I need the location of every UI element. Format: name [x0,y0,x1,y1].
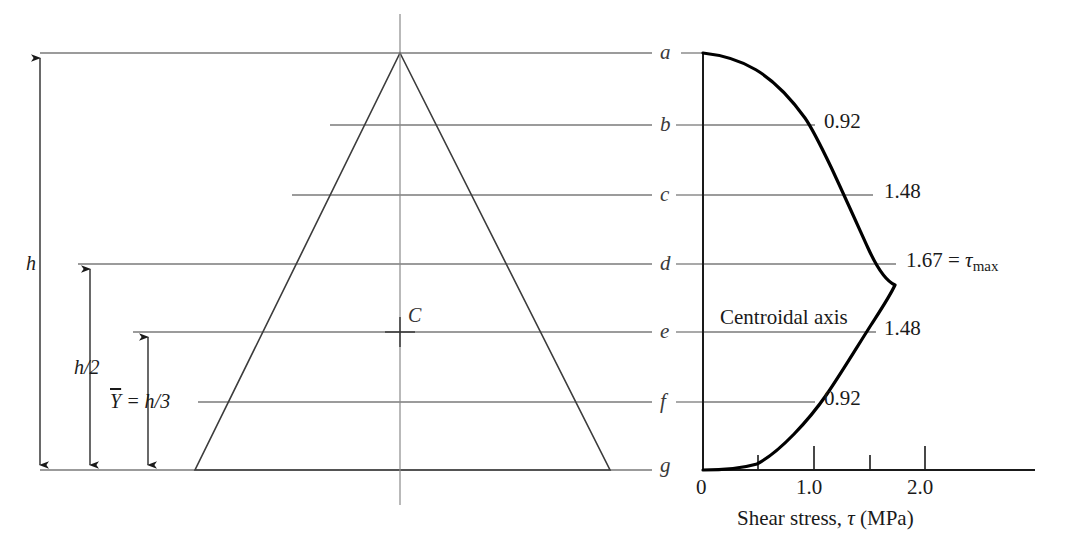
stress-value-b: 0.92 [824,388,861,409]
axis-tick-label-0: 0 [696,477,707,498]
stress-value-e: 1.48 [884,181,921,202]
level-letter-f: b [660,114,671,135]
tau-max-value: 1.67 [906,248,943,272]
y-bar-variable: Y [110,390,121,412]
axis-title: Shear stress, τ (MPa) [737,508,914,529]
level-letter-e: c [660,184,669,205]
shear-stress-figure: a b c d e f g C h h/2 Y = h/3 0.92 1.48 … [0,0,1081,543]
plot-axis-ticks [703,446,925,470]
level-letter-b: f [660,391,666,412]
tau-symbol: τ [965,248,973,272]
level-letter-a: g [660,455,671,476]
tau-max-subscript: max [973,258,999,274]
triangle-outline [195,53,610,470]
y-bar-expression: = h/3 [121,390,170,412]
centroid-label: C [408,305,421,325]
level-letter-d: d [660,253,671,274]
dimension-label-y-bar: Y = h/3 [110,391,170,411]
dimension-label-h: h [26,253,36,273]
plot-level-rules [703,125,896,402]
shear-stress-curve [703,53,895,470]
level-line-stubs [676,53,703,402]
stress-value-c: 1.48 [884,318,921,339]
axis-title-prefix: Shear stress, [737,506,847,530]
axis-title-suffix: (MPa) [855,506,914,530]
shear-stress-curve-path [703,53,895,470]
triangle-cross-section [195,53,610,470]
tau-max-annotation: 1.67 = τmax [906,250,998,271]
level-letter-c: e [660,321,669,342]
centroidal-axis-label: Centroidal axis [720,307,848,328]
axis-tick-label-1: 1.0 [796,477,822,498]
dimension-label-h-over-2: h/2 [74,357,100,377]
axis-title-tau-symbol: τ [847,506,855,530]
level-letter-g: a [660,42,671,63]
axis-tick-label-2: 2.0 [907,477,933,498]
tau-max-equals: = [948,248,960,272]
stress-value-f: 0.92 [824,111,861,132]
